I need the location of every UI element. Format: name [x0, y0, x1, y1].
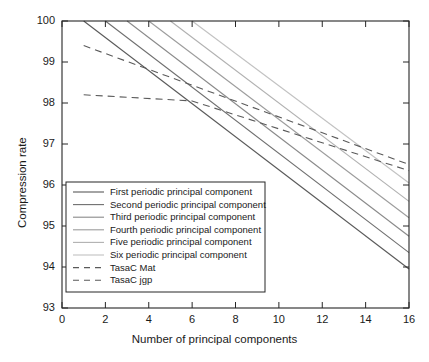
legend-item-label: Fourth periodic principal component [110, 224, 261, 235]
y-tick-label: 94 [29, 260, 55, 272]
legend-item-label: First periodic principal component [110, 186, 252, 197]
x-tick-label: 10 [266, 313, 292, 325]
legend-item-label: Second periodic principal component [110, 199, 266, 210]
legend-item-label: TasaC Mat [110, 262, 155, 273]
x-tick-label: 6 [179, 313, 205, 325]
series-line [84, 95, 409, 171]
legend-item-label: TasaC jgp [110, 274, 152, 285]
series-line [84, 46, 409, 165]
plot-canvas [0, 0, 429, 362]
y-tick-label: 99 [29, 55, 55, 67]
x-tick-label: 0 [49, 313, 75, 325]
x-tick-label: 8 [223, 313, 249, 325]
series-line [170, 21, 409, 201]
legend-item-label: Five periodic principal component [110, 236, 252, 247]
x-tick-label: 14 [353, 313, 379, 325]
legend-item-label: Six periodic principal component [110, 249, 247, 260]
y-tick-label: 97 [29, 137, 55, 149]
x-tick-label: 16 [396, 313, 422, 325]
series-line [192, 21, 409, 183]
x-tick-label: 4 [136, 313, 162, 325]
y-tick-label: 100 [29, 14, 55, 26]
x-tick-label: 12 [309, 313, 335, 325]
y-tick-label: 95 [29, 219, 55, 231]
x-tick-label: 2 [92, 313, 118, 325]
y-tick-label: 93 [29, 301, 55, 313]
chart-figure: Compression rate Number of principal com… [0, 0, 429, 362]
legend-item-label: Third periodic principal component [110, 211, 255, 222]
y-tick-label: 96 [29, 178, 55, 190]
y-tick-label: 98 [29, 96, 55, 108]
